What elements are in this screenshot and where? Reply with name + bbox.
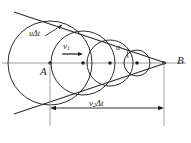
- dimension-arrowhead-left: [50, 106, 56, 110]
- label-mach-angle: α: [116, 44, 120, 52]
- center-dot-2: [81, 61, 84, 64]
- label-travel-distance: v2Δt: [89, 99, 104, 109]
- dimension-arrowhead-right: [158, 106, 164, 110]
- label-source-velocity-subscript: 1: [67, 45, 70, 51]
- label-source-velocity: v1: [63, 42, 70, 52]
- center-dot-3: [108, 61, 111, 64]
- center-dot-4: [135, 61, 138, 64]
- velocity-arrow-head: [78, 52, 83, 56]
- label-point-a: A: [40, 66, 47, 77]
- label-point-b: B: [177, 55, 184, 66]
- figure-canvas: A B uΔt v1 α v2Δt: [0, 0, 191, 143]
- mach-cone-diagram: [0, 0, 191, 143]
- radius-leader-arrowhead: [58, 25, 62, 29]
- label-wave-radius: uΔt: [29, 30, 40, 38]
- label-travel-distance-suffix: Δt: [96, 98, 104, 108]
